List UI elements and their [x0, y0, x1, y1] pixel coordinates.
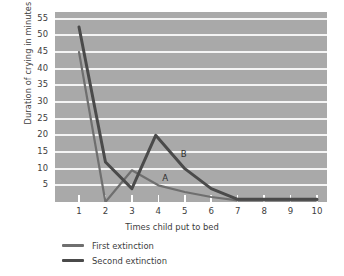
x-tick-label: 8	[252, 206, 276, 216]
curve-annotation-b: B	[181, 149, 187, 159]
y-tick-label: 35	[22, 79, 48, 89]
legend-label-first-extinction: First extinction	[92, 241, 154, 251]
legend-swatch-second-extinction	[62, 259, 84, 263]
y-tick-label: 25	[22, 113, 48, 123]
y-tick-label: 45	[22, 46, 48, 56]
x-tick-label: 7	[226, 206, 250, 216]
y-tick-label: 5	[22, 179, 48, 189]
legend-item-first-extinction: First extinction	[62, 238, 167, 253]
x-tick-label: 3	[120, 206, 144, 216]
x-tick-label: 6	[199, 206, 223, 216]
x-tick-label: 2	[93, 206, 117, 216]
series-line	[79, 27, 317, 199]
y-tick-label: 50	[22, 29, 48, 39]
legend-label-second-extinction: Second extinction	[92, 256, 167, 266]
x-tick-label: 10	[305, 206, 329, 216]
y-tick-label: 55	[22, 13, 48, 23]
x-tick-label: 1	[67, 206, 91, 216]
y-tick-label: 20	[22, 129, 48, 139]
x-tick-label: 9	[279, 206, 303, 216]
series-lines	[55, 12, 327, 202]
y-tick-label: 10	[22, 163, 48, 173]
chart-figure: Duration of crying in minutes AB 5101520…	[0, 0, 344, 276]
y-tick-label: 15	[22, 146, 48, 156]
x-axis-title: Times child put to bed	[0, 222, 344, 232]
curve-annotation-a: A	[162, 173, 168, 183]
legend-item-second-extinction: Second extinction	[62, 253, 167, 268]
y-tick-label: 30	[22, 96, 48, 106]
x-tick-label: 4	[146, 206, 170, 216]
x-tick-label: 5	[173, 206, 197, 216]
y-tick-label: 40	[22, 63, 48, 73]
legend-swatch-first-extinction	[62, 244, 84, 247]
legend: First extinction Second extinction	[62, 238, 167, 268]
